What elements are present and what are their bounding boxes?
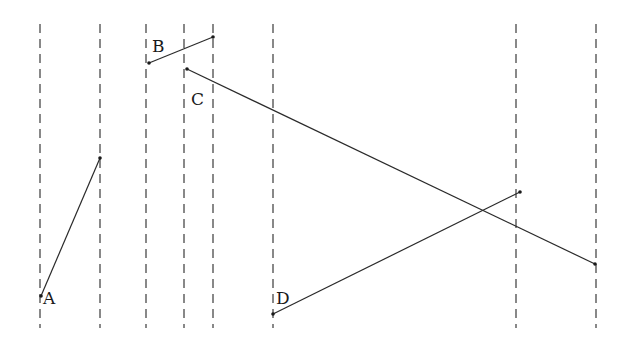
segment-a bbox=[39, 156, 102, 298]
line-segments bbox=[39, 35, 597, 316]
segment-c bbox=[185, 67, 597, 266]
segment-line bbox=[41, 158, 100, 296]
segment-d bbox=[271, 190, 522, 316]
dashed-guide-lines bbox=[40, 24, 596, 328]
segment-line bbox=[187, 69, 595, 264]
segment-diagram: ABCD bbox=[0, 0, 631, 341]
endpoint-dot bbox=[185, 67, 189, 71]
segment-labels: ABCD bbox=[42, 36, 290, 308]
endpoint-dot bbox=[518, 190, 522, 194]
segment-line bbox=[273, 192, 520, 314]
endpoint-dot bbox=[271, 312, 275, 316]
endpoint-dot bbox=[98, 156, 102, 160]
segment-label: C bbox=[191, 89, 204, 109]
endpoint-dot bbox=[211, 35, 215, 39]
segment-label: A bbox=[42, 288, 56, 308]
segment-label: D bbox=[276, 288, 290, 308]
segment-label: B bbox=[152, 36, 165, 56]
endpoint-dot bbox=[147, 61, 151, 65]
endpoint-dot bbox=[593, 262, 597, 266]
